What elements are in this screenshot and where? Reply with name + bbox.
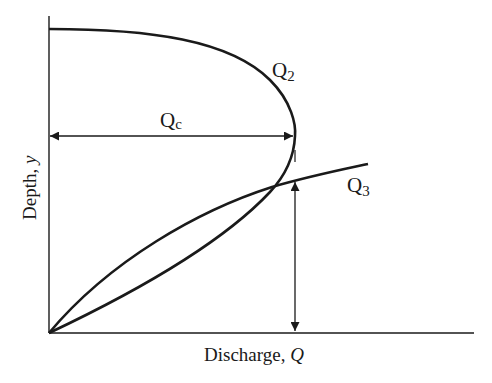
x-axis-label: Discharge, Q (204, 344, 304, 365)
y-axis-label: Depth, y (19, 155, 40, 220)
depth-discharge-diagram: Q2 Q3 Qc Discharge, Q Depth, y (0, 0, 492, 383)
qc-label: Qc (160, 108, 182, 132)
curve-q2 (49, 29, 295, 333)
q2-label: Q2 (272, 58, 295, 84)
q3-label: Q3 (347, 173, 370, 199)
curve-q3 (49, 164, 368, 333)
